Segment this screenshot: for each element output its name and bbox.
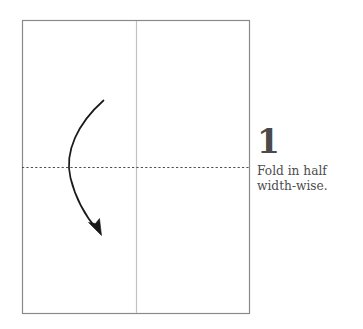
step-number: 1 — [257, 126, 361, 158]
step-instruction-text: Fold in half width-wise. — [257, 164, 361, 193]
step-caption: 1 Fold in half width-wise. — [257, 126, 361, 193]
fold-instruction-diagram: 1 Fold in half width-wise. — [0, 0, 363, 329]
